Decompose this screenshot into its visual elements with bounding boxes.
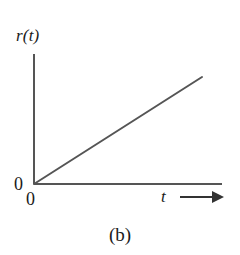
figure-caption: (b) — [0, 225, 240, 244]
arrow-right-icon — [212, 191, 224, 203]
x-axis-label: t — [161, 188, 166, 205]
y-axis-origin-tick-label: 0 — [14, 175, 23, 193]
y-axis-label: r(t) — [16, 27, 39, 44]
figure-container: r(t) t 0 0 (b) — [0, 0, 240, 255]
ramp-data-line — [34, 77, 202, 184]
x-axis-origin-tick-label: 0 — [26, 190, 35, 208]
